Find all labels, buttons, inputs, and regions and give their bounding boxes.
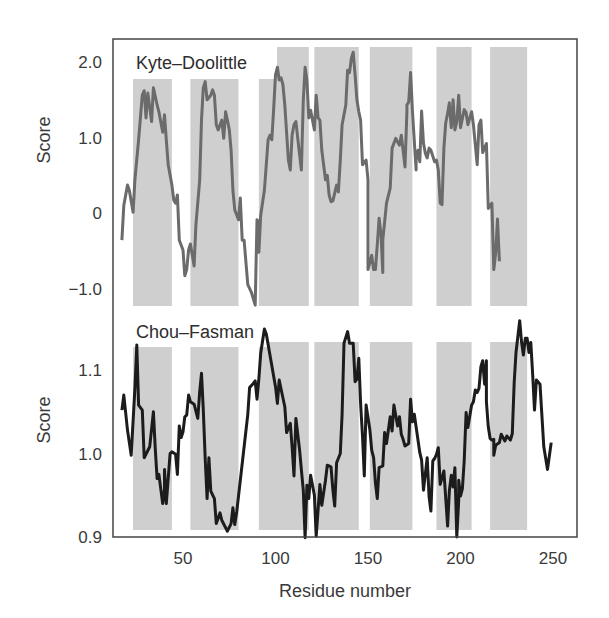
lower-y-axis-label: Score [34,396,54,443]
x-tick-label: 50 [174,549,193,568]
chou-fasman-label: Chou–Fasman [136,322,254,342]
x-tick-label: 100 [261,549,289,568]
shaded-region [490,47,527,306]
y-tick-label: −1.0 [68,280,102,299]
y-tick-label: 2.0 [78,53,102,72]
shaded-region [133,47,172,306]
x-axis-label: Residue number [279,581,411,601]
upper-y-axis-label: Score [34,116,54,163]
y-tick-label: 1.1 [78,361,102,380]
shaded-region [259,342,309,530]
y-tick-label: 1.0 [78,129,102,148]
lower-shaded-regions [133,342,527,530]
x-tick-label: 200 [446,549,474,568]
lower-y-tick-labels: 1.11.00.9 [78,361,102,547]
shaded-region [370,342,413,530]
y-tick-label: 0 [93,204,102,223]
kyte-doolittle-label: Kyte–Doolittle [136,53,247,73]
y-tick-label: 0.9 [78,528,102,547]
upper-y-tick-labels: 2.01.00−1.0 [68,53,102,299]
y-tick-label: 1.0 [78,445,102,464]
hydropathy-chart: Kyte–Doolittle Chou–Fasman 2.01.00−1.0 1… [0,0,609,618]
x-tick-label: 250 [539,549,567,568]
x-tick-labels: 50100150200250 [174,549,568,568]
x-tick-label: 150 [354,549,382,568]
upper-shaded-regions [133,47,527,306]
shaded-region [314,47,358,306]
